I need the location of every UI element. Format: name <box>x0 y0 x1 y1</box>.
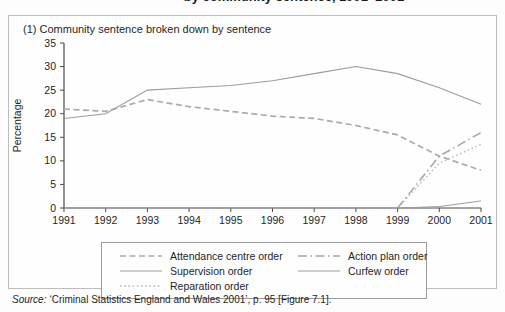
series-line-supervision-order <box>64 67 481 119</box>
page: by community sentence, 1991–2001 (1) Com… <box>0 0 505 312</box>
x-tick-label: 1991 <box>52 214 76 226</box>
y-axis-label: Percentage <box>11 98 23 152</box>
y-tick-label: 10 <box>44 154 56 166</box>
legend-label: Attendance centre order <box>170 250 283 262</box>
y-tick-label: 5 <box>50 178 56 190</box>
legend-item: Action plan order <box>298 249 427 262</box>
x-tick-label: 1996 <box>261 214 285 226</box>
x-tick-label: 2001 <box>469 214 493 226</box>
legend-item: Attendance centre order <box>120 249 298 262</box>
y-tick-label: 25 <box>44 84 56 96</box>
legend-label: Supervision order <box>170 265 252 277</box>
x-tick-label: 1994 <box>177 214 201 226</box>
x-tick-label: 2000 <box>428 214 452 226</box>
x-tick-label: 1993 <box>136 214 160 226</box>
x-tick-label: 1998 <box>344 214 368 226</box>
legend-swatch-line <box>120 281 162 291</box>
legend: Attendance centre orderAction plan order… <box>101 242 427 299</box>
y-tick-label: 20 <box>44 107 56 119</box>
x-tick-label: 1997 <box>303 214 327 226</box>
source-label: Source: <box>12 294 46 305</box>
y-tick-label: 35 <box>44 37 56 49</box>
legend-item: Curfew order <box>298 264 427 277</box>
source-text: ‘Criminal Statistics England and Wales 2… <box>49 294 331 305</box>
legend-label: Curfew order <box>348 265 409 277</box>
y-tick-label: 30 <box>44 60 56 72</box>
legend-swatch-line <box>120 266 162 276</box>
x-tick-label: 1999 <box>386 214 410 226</box>
legend-label: Action plan order <box>348 250 427 262</box>
x-tick-label: 1992 <box>94 214 118 226</box>
x-tick-label: 1995 <box>219 214 243 226</box>
series-line-action-plan-order <box>398 133 481 208</box>
legend-swatch-line <box>298 266 340 276</box>
legend-swatch-line <box>120 251 162 261</box>
series-line-curfew-order <box>64 201 481 208</box>
chart-panel: (1) Community sentence broken down by se… <box>8 15 497 289</box>
legend-item: Reparation order <box>120 279 298 292</box>
legend-label: Reparation order <box>170 280 249 292</box>
source-line: Source:‘Criminal Statistics England and … <box>12 294 331 305</box>
axes <box>64 43 481 208</box>
cropped-page-title: by community sentence, 1991–2001 <box>88 0 500 4</box>
series-line-reparation-order <box>398 144 481 208</box>
legend-item: Supervision order <box>120 264 298 277</box>
series-line-attendance-centre-order <box>64 100 481 171</box>
y-tick-label: 0 <box>50 202 56 214</box>
legend-swatch-line <box>298 251 340 261</box>
y-tick-label: 15 <box>44 131 56 143</box>
